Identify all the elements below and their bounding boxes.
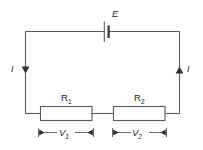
v2-left-arrow-icon — [113, 130, 118, 136]
up-arrow-icon — [176, 67, 184, 74]
battery-symbol — [104, 22, 108, 43]
emf-label: E — [112, 8, 119, 19]
current-arrow-left — [22, 67, 30, 74]
resistor-r2-label: R2 — [134, 92, 145, 105]
circuit-diagram: E I I R1 R2 — [0, 0, 203, 150]
voltage-v1-dimension: V1 — [39, 127, 94, 140]
down-arrow-icon — [22, 67, 30, 74]
voltage-v2-label: V2 — [132, 127, 142, 140]
current-label-left: I — [11, 64, 14, 74]
circuit-schematic-canvas: E I I R1 R2 — [0, 0, 203, 150]
current-label-right: I — [187, 64, 190, 74]
voltage-v1-label: V1 — [59, 127, 69, 140]
resistor-r1-label: R1 — [61, 92, 72, 105]
current-arrow-right — [176, 67, 184, 74]
voltage-v2-dimension: V2 — [113, 127, 167, 140]
resistor-r2-body — [114, 107, 166, 121]
resistor-r1-body — [41, 107, 93, 121]
v2-right-arrow-icon — [160, 130, 165, 136]
v1-right-arrow-icon — [87, 130, 92, 136]
v1-left-arrow-icon — [39, 130, 44, 136]
